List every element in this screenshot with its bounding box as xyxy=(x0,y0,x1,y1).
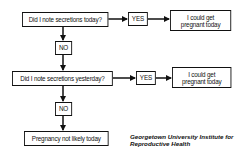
question-today-box: Did I note secretions today? xyxy=(22,12,108,27)
yes-today-box: YES xyxy=(128,12,148,26)
result-today-box: I could get pregnant today xyxy=(170,10,231,31)
result-today-line1: I could get xyxy=(187,14,214,21)
final-result-box: Pregnancy not likely today xyxy=(24,131,109,146)
question-yesterday-box: Did I note secretions yesterday? xyxy=(12,71,113,86)
source-caption: Georgetown University Institute for Repr… xyxy=(130,133,233,147)
result-yesterday-box: I could get pregnant today xyxy=(172,67,231,88)
caption-line1: Georgetown University Institute for xyxy=(130,133,233,140)
yes-yesterday-box: YES xyxy=(136,71,156,85)
no-yesterday-label: NO xyxy=(59,105,68,113)
yes-today-label: YES xyxy=(132,15,144,23)
question-yesterday-label: Did I note secretions yesterday? xyxy=(20,75,104,83)
no-today-label: NO xyxy=(59,44,68,52)
result-yesterday-line2: pregnant today xyxy=(182,78,222,85)
result-today-line2: pregnant today xyxy=(181,21,221,28)
result-yesterday-line1: I could get xyxy=(188,71,215,78)
caption-line2: Reproductive Health xyxy=(130,140,233,147)
no-yesterday-box: NO xyxy=(55,102,72,116)
yes-yesterday-label: YES xyxy=(140,74,152,82)
final-result-label: Pregnancy not likely today xyxy=(32,135,101,143)
no-today-box: NO xyxy=(55,41,72,55)
question-today-label: Did I note secretions today? xyxy=(29,16,102,24)
